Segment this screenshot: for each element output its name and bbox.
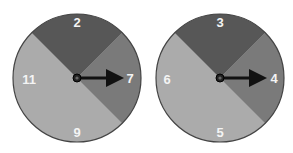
pivot-center: [75, 76, 78, 79]
sector-label-left: 6: [163, 72, 170, 87]
pivot-center: [218, 76, 221, 79]
sector-label-right: 4: [270, 71, 278, 86]
sector-label-bottom: 5: [216, 125, 223, 140]
sector-label-left: 11: [22, 72, 36, 87]
spinner-left: 2 7 9 11: [13, 14, 141, 142]
sector-label-bottom: 9: [73, 125, 80, 140]
sector-label-top: 3: [216, 15, 223, 30]
sector-label-top: 2: [73, 15, 80, 30]
spinner-right: 3 4 5 6: [156, 14, 284, 142]
spinners-diagram: 2 7 9 11 3 4 5 6: [0, 0, 293, 153]
sector-label-right: 7: [126, 71, 133, 86]
